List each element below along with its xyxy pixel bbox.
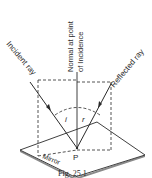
label-angle-i: i bbox=[65, 115, 67, 124]
label-normal-line1: Normal at point bbox=[66, 20, 75, 72]
point-of-incidence bbox=[76, 147, 78, 149]
reflection-diagram: Incident ray Normal at point of Incidenc… bbox=[0, 0, 152, 178]
label-incident-ray: Incident ray bbox=[4, 40, 37, 77]
figure-caption: Fig. 25.1 bbox=[58, 169, 87, 178]
label-normal-line2: of Incidence bbox=[76, 32, 85, 72]
angle-arc bbox=[55, 108, 100, 116]
label-point-p: P bbox=[73, 153, 78, 162]
label-angle-r: r bbox=[82, 115, 85, 124]
label-reflected-ray: Reflected ray bbox=[109, 47, 146, 89]
